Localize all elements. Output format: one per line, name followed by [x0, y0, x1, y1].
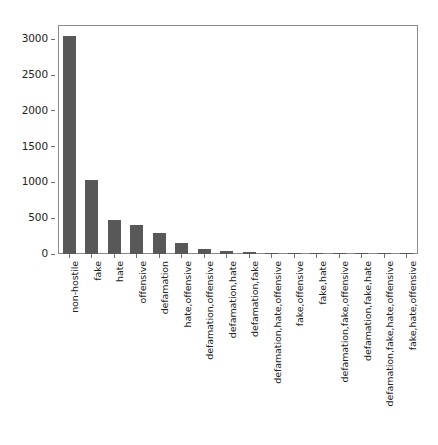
x-axis-tick-mark [384, 254, 385, 258]
x-axis-tick-label: defamation,fake,hate,offensive [384, 261, 395, 406]
y-axis: 050010001500200025003000 [0, 0, 58, 445]
x-axis-tick-label: fake,offensive [294, 261, 305, 326]
x-axis-tick-label: defamation,fake,hate [362, 261, 373, 361]
x-axis-tick-label: defamation [159, 261, 170, 314]
x-axis-tick-mark [339, 254, 340, 258]
x-axis-tick-mark [226, 254, 227, 258]
y-axis-tick-label: 2500 [22, 68, 48, 80]
y-axis-tick-mark [51, 75, 55, 76]
bar [108, 220, 121, 254]
y-axis-tick-label: 0 [41, 247, 48, 259]
x-axis-tick-mark [181, 254, 182, 258]
bar [175, 243, 188, 254]
bar [63, 36, 76, 254]
y-axis-tick-label: 1000 [22, 175, 48, 187]
x-axis-tick-label: fake,hate,offensive [407, 261, 418, 350]
x-axis-tick-mark [204, 254, 205, 258]
bar [153, 233, 166, 254]
x-axis-tick-label: defamation,offensive [204, 261, 215, 360]
x-axis-tick-label: non-hostile [69, 261, 80, 313]
x-axis-tick-label: defamation,hate,offensive [272, 261, 283, 384]
y-axis-tick-mark [51, 146, 55, 147]
x-axis-tick-mark [91, 254, 92, 258]
x-axis-tick-mark [271, 254, 272, 258]
y-axis-tick-mark [51, 39, 55, 40]
x-axis-tick-label: defamation,fake,offensive [339, 261, 350, 382]
bar-chart-figure: 050010001500200025003000 non-hostilefake… [0, 0, 438, 445]
y-axis-tick-label: 2000 [22, 104, 48, 116]
x-axis-tick-label: hate [114, 261, 125, 282]
x-axis-tick-mark [406, 254, 407, 258]
x-axis-tick-mark [294, 254, 295, 258]
y-axis-tick-mark [51, 110, 55, 111]
x-axis-tick-label: hate,offensive [182, 261, 193, 327]
y-axis-tick-mark [51, 218, 55, 219]
x-axis-tick-mark [136, 254, 137, 258]
y-axis-tick-mark [51, 182, 55, 183]
x-axis-tick-label: fake,hate [317, 261, 328, 305]
y-axis-tick-label: 1500 [22, 140, 48, 152]
x-axis-tick-label: fake [92, 261, 103, 281]
x-axis-tick-label: offensive [137, 261, 148, 304]
x-axis-tick-label: defamation,hate [227, 261, 238, 338]
x-axis: non-hostilefakehateoffensivedefamationha… [58, 254, 418, 444]
y-axis-tick-label: 500 [28, 211, 48, 223]
x-axis-tick-label: defamation,fake [249, 261, 260, 337]
y-axis-tick-mark [51, 254, 55, 255]
bar [130, 225, 143, 254]
x-axis-tick-mark [69, 254, 70, 258]
x-axis-tick-mark [159, 254, 160, 258]
x-axis-tick-mark [249, 254, 250, 258]
x-axis-tick-mark [316, 254, 317, 258]
bar [85, 180, 98, 254]
bars-container [58, 25, 418, 254]
x-axis-tick-mark [114, 254, 115, 258]
x-axis-tick-mark [361, 254, 362, 258]
y-axis-tick-label: 3000 [22, 32, 48, 44]
